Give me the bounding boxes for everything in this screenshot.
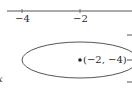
center-point-label: (−2, −4): [83, 55, 127, 65]
x-axis-label: x: [0, 74, 3, 84]
x-tick-label-neg4: −4: [15, 14, 30, 24]
x-tick-label-neg2: −2: [73, 14, 88, 24]
center-point: [78, 58, 82, 62]
